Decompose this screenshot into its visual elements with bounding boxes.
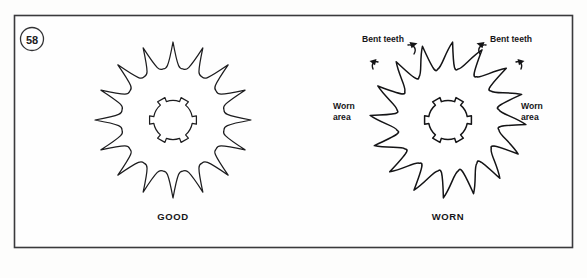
worn-caption: WORN — [432, 211, 464, 222]
good-caption: GOOD — [157, 211, 188, 222]
worn-area-left-label-line2: area — [333, 112, 351, 122]
figure-number: 58 — [26, 34, 38, 46]
worn-area-right-label-line2: area — [521, 112, 539, 122]
figure-panel: 58 GOOD WORN Bent teeth Bent teeth — [0, 0, 587, 278]
figure-number-badge: 58 — [21, 28, 44, 51]
bent-teeth-right-label: Bent teeth — [490, 34, 532, 44]
worn-area-right-label-line1: Worn — [521, 101, 543, 111]
sprocket-comparison-illustration: 58 GOOD WORN Bent teeth Bent teeth — [0, 0, 587, 278]
worn-area-left-label-line1: Worn — [333, 101, 355, 111]
bent-teeth-left-label: Bent teeth — [362, 34, 404, 44]
